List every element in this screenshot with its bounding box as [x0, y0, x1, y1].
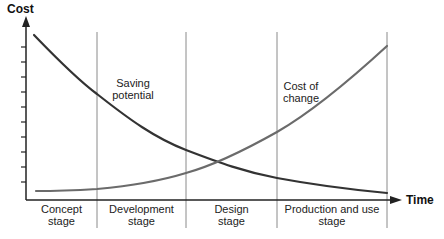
y-axis-label: Cost: [7, 2, 34, 16]
stage-label-line2: stage: [277, 215, 387, 227]
saving-potential-label-line2: potential: [108, 89, 158, 101]
stage-label-design: Design stage: [186, 203, 277, 227]
cost-of-change-label-line2: change: [279, 92, 323, 104]
stage-label-line2: stage: [26, 215, 97, 227]
stage-label-line1: Concept: [26, 203, 97, 215]
saving-potential-label-line1: Saving: [108, 77, 158, 89]
cost-of-change-label-line1: Cost of: [279, 80, 323, 92]
y-axis: [21, 16, 30, 200]
stage-label-line1: Design: [186, 203, 277, 215]
x-axis-label: Time: [406, 193, 434, 207]
cost-of-change-label: Cost of change: [279, 80, 323, 104]
saving-potential-curve: [34, 35, 387, 193]
saving-potential-label: Saving potential: [108, 77, 158, 101]
stage-label-line2: stage: [97, 215, 186, 227]
stage-label-concept: Concept stage: [26, 203, 97, 227]
stage-label-production: Production and use stage: [277, 203, 387, 227]
cost-of-change-curve: [36, 46, 387, 191]
stage-label-development: Development stage: [97, 203, 186, 227]
stage-label-line1: Development: [97, 203, 186, 215]
stage-label-line1: Production and use: [277, 203, 387, 215]
stage-label-line2: stage: [186, 215, 277, 227]
stage-dividers: [97, 32, 387, 228]
